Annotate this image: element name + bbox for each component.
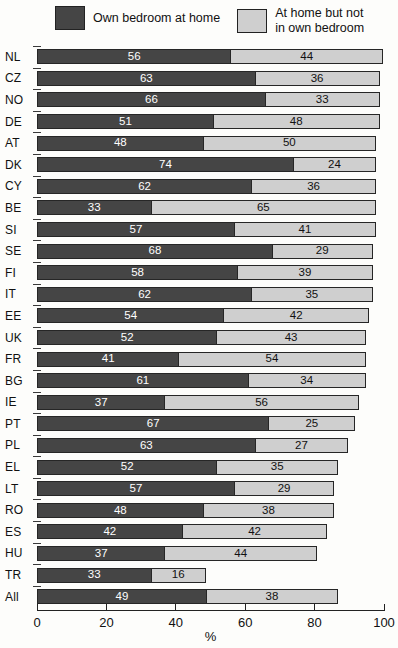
bar-segment-not-own-bedroom: 44 xyxy=(230,49,383,64)
bar-row: All4938 xyxy=(0,586,398,608)
bar-row: EE5442 xyxy=(0,305,398,327)
value-label: 34 xyxy=(300,375,313,387)
x-axis-tick xyxy=(314,604,315,611)
bar-row: FI5839 xyxy=(0,262,398,284)
bar-segment-own-bedroom: 61 xyxy=(37,373,249,388)
stacked-bar: 5839 xyxy=(37,265,384,280)
value-label: 42 xyxy=(248,526,261,538)
value-label: 25 xyxy=(305,418,318,430)
legend: Own bedroom at home At home but notin ow… xyxy=(55,6,364,36)
bar-segment-not-own-bedroom: 35 xyxy=(251,287,372,302)
value-label: 29 xyxy=(316,245,329,257)
stacked-bar: 3365 xyxy=(37,200,384,215)
bar-row: PL6327 xyxy=(0,435,398,457)
stacked-bar: 6829 xyxy=(37,244,384,259)
stacked-bar: 3744 xyxy=(37,546,384,561)
bar-segment-not-own-bedroom: 42 xyxy=(182,524,328,539)
value-label: 61 xyxy=(136,375,149,387)
bar-row: NL5644 xyxy=(0,46,398,68)
category-label: EE xyxy=(0,309,37,323)
bar-segment-own-bedroom: 62 xyxy=(37,287,252,302)
stacked-bar: 6235 xyxy=(37,287,384,302)
bar-row: LT5729 xyxy=(0,478,398,500)
value-label: 66 xyxy=(145,94,158,106)
x-axis-tick xyxy=(245,604,246,611)
bar-segment-not-own-bedroom: 54 xyxy=(178,352,365,367)
category-label: HU xyxy=(0,546,37,560)
bar-row: FR4154 xyxy=(0,348,398,370)
value-label: 62 xyxy=(138,289,151,301)
value-label: 54 xyxy=(124,310,137,322)
bar-segment-not-own-bedroom: 39 xyxy=(237,265,372,280)
x-axis-line xyxy=(37,610,384,611)
value-label: 35 xyxy=(305,289,318,301)
x-axis-tick-label: 100 xyxy=(373,615,395,630)
category-label: ES xyxy=(0,525,37,539)
bar-segment-own-bedroom: 56 xyxy=(37,49,231,64)
bar-row: AT4850 xyxy=(0,132,398,154)
value-label: 57 xyxy=(129,483,142,495)
bar-row: TR3316 xyxy=(0,564,398,586)
x-axis-tick-label: 20 xyxy=(99,615,113,630)
value-label: 67 xyxy=(147,418,160,430)
bar-row: PT6725 xyxy=(0,413,398,435)
category-label: RO xyxy=(0,503,37,517)
value-label: 57 xyxy=(129,224,142,236)
bar-row: IE3756 xyxy=(0,392,398,414)
stacked-bar: 5729 xyxy=(37,481,384,496)
bar-segment-own-bedroom: 52 xyxy=(37,330,217,345)
legend-item-not-own-bedroom: At home but notin own bedroom xyxy=(237,6,364,36)
value-label: 63 xyxy=(140,73,153,85)
legend-label-own-bedroom: Own bedroom at home xyxy=(93,11,220,26)
stacked-bar: 6236 xyxy=(37,179,384,194)
value-label: 27 xyxy=(295,440,308,452)
stacked-bar: 4938 xyxy=(37,589,384,604)
bar-segment-own-bedroom: 51 xyxy=(37,114,214,129)
category-label: IE xyxy=(0,395,37,409)
stacked-bar: 4242 xyxy=(37,524,384,539)
stacked-bar: 4850 xyxy=(37,136,384,151)
bar-segment-not-own-bedroom: 44 xyxy=(164,546,317,561)
value-label: 74 xyxy=(159,159,172,171)
value-label: 35 xyxy=(271,461,284,473)
value-label: 36 xyxy=(307,181,320,193)
value-label: 36 xyxy=(311,73,324,85)
category-label: TR xyxy=(0,568,37,582)
bar-row: HU3744 xyxy=(0,543,398,565)
bar-segment-own-bedroom: 62 xyxy=(37,179,252,194)
bar-segment-own-bedroom: 42 xyxy=(37,524,183,539)
stacked-bar: 5235 xyxy=(37,460,384,475)
bar-row: UK5243 xyxy=(0,327,398,349)
stacked-bar: 6725 xyxy=(37,416,384,431)
category-label: All xyxy=(0,590,37,604)
bar-segment-not-own-bedroom: 42 xyxy=(223,308,369,323)
chart-rows: NL5644CZ6336NO6633DE5148AT4850DK7424CY62… xyxy=(0,46,398,607)
value-label: 33 xyxy=(88,202,101,214)
bar-segment-not-own-bedroom: 24 xyxy=(293,157,376,172)
value-label: 52 xyxy=(121,461,134,473)
x-axis-tick xyxy=(175,604,176,611)
stacked-bar-chart-figure: Own bedroom at home At home but notin ow… xyxy=(0,0,398,648)
category-label: NL xyxy=(0,50,37,64)
stacked-bar: 5741 xyxy=(37,222,384,237)
bar-segment-own-bedroom: 57 xyxy=(37,222,235,237)
x-axis-tick-label: 60 xyxy=(238,615,252,630)
bar-segment-not-own-bedroom: 36 xyxy=(255,71,380,86)
category-label: DE xyxy=(0,115,37,129)
value-label: 39 xyxy=(299,267,312,279)
bar-segment-not-own-bedroom: 35 xyxy=(216,460,337,475)
category-label: IT xyxy=(0,287,37,301)
bar-segment-own-bedroom: 67 xyxy=(37,416,269,431)
category-label: AT xyxy=(0,136,37,150)
stacked-bar: 3756 xyxy=(37,395,384,410)
x-axis-tick xyxy=(384,604,385,611)
value-label: 48 xyxy=(114,137,127,149)
bar-row: BE3365 xyxy=(0,197,398,219)
bar-segment-not-own-bedroom: 29 xyxy=(272,244,373,259)
value-label: 38 xyxy=(262,505,275,517)
bar-segment-own-bedroom: 48 xyxy=(37,136,204,151)
value-label: 51 xyxy=(119,116,132,128)
legend-label-line1: At home but not xyxy=(275,6,363,20)
value-label: 41 xyxy=(299,224,312,236)
bar-segment-own-bedroom: 37 xyxy=(37,546,165,561)
